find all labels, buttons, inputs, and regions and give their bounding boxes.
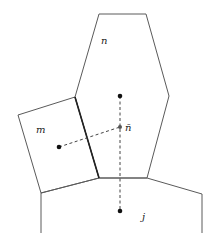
mesh-diagram: n m j n̄ <box>0 0 217 252</box>
point-n-center <box>118 94 123 99</box>
point-n-bar <box>118 125 122 129</box>
label-m: m <box>36 124 45 135</box>
point-m-center <box>57 145 62 150</box>
cell-j <box>41 178 202 233</box>
label-n: n <box>101 35 107 46</box>
point-j-center <box>118 209 123 214</box>
label-n-bar: n̄ <box>125 122 131 133</box>
label-j: j <box>140 211 145 222</box>
